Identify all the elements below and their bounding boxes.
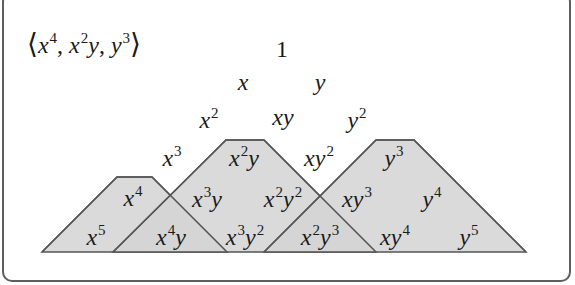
generator-x2y: x2y [69, 32, 99, 58]
monomial-x5: x5 [86, 225, 105, 249]
monomial-x4y: x4y [156, 225, 186, 249]
monomial-x3y: x3y [192, 187, 222, 211]
separator: , [99, 32, 111, 58]
monomial-xy2: xy2 [304, 146, 334, 170]
monomial-y2: y2 [347, 108, 366, 132]
monomial-y5: y5 [459, 225, 478, 249]
monomial-y: y [315, 70, 326, 94]
separator: , [57, 32, 69, 58]
monomial-x2y: x2y [229, 146, 259, 170]
close-angle-bracket: ⟩ [130, 28, 141, 59]
monomial-x3y2: x3y2 [226, 225, 264, 249]
monomial-y3: y3 [384, 146, 403, 170]
monomial-xy4: xy4 [380, 225, 410, 249]
monomial-x2y2: x2y2 [264, 187, 302, 211]
monomial-x2y3: x2y3 [301, 225, 339, 249]
monomial-xy3: xy3 [342, 187, 372, 211]
monomial-xy: xy [272, 105, 293, 129]
monomial-x: x [238, 70, 249, 94]
monomial-x3: x3 [162, 146, 181, 170]
monomial-x2: x2 [199, 108, 218, 132]
monomial-y4: y4 [422, 187, 441, 211]
generator-y3: y3 [111, 32, 130, 58]
open-angle-bracket: ⟨ [27, 28, 38, 59]
monomial-x4: x4 [123, 186, 142, 210]
generator-x4: x4 [38, 32, 57, 58]
monomial-1: 1 [276, 37, 288, 61]
ideal-generators: ⟨x4, x2y, y3⟩ [27, 30, 141, 58]
